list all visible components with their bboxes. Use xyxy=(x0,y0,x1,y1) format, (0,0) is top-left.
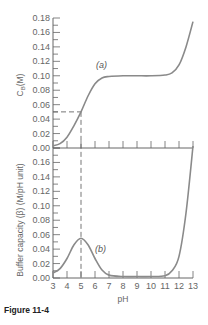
y-tick-label: 0.14 xyxy=(32,172,50,182)
x-tick-label: 8 xyxy=(120,281,125,291)
buffer-chart: 0.000.020.040.060.080.100.120.140.160.18… xyxy=(0,0,208,325)
y-tick-label: 0.16 xyxy=(32,157,50,167)
curve-a xyxy=(53,22,193,146)
figure-caption: Figure 11-4 xyxy=(4,305,49,315)
x-tick-label: 13 xyxy=(188,281,198,291)
x-tick-label: 10 xyxy=(146,281,156,291)
x-tick-label: 3 xyxy=(50,281,55,291)
y-tick-label: 0.10 xyxy=(32,201,50,211)
x-tick-label: 4 xyxy=(64,281,69,291)
y-tick-label: 0.02 xyxy=(32,259,50,269)
upper-y-axis-title: CB(M) xyxy=(15,73,26,96)
y-tick-label: 0.10 xyxy=(32,71,50,81)
y-tick-label: 0.12 xyxy=(32,56,50,66)
curve-label-a: (a) xyxy=(96,60,107,70)
x-axis-title: pH xyxy=(118,294,129,304)
y-tick-label: 0.08 xyxy=(32,85,50,95)
x-tick-label: 11 xyxy=(160,281,169,291)
curve-label-b: (b) xyxy=(95,244,106,254)
y-tick-label: 0.16 xyxy=(32,27,50,37)
y-tick-label: 0.00 xyxy=(32,143,50,153)
y-tick-label: 0.02 xyxy=(32,129,50,139)
y-tick-label: 0.04 xyxy=(32,114,50,124)
y-tick-label: 0.18 xyxy=(32,13,50,23)
y-tick-label: 0.08 xyxy=(32,215,50,225)
y-tick-label: 0.04 xyxy=(32,244,50,254)
x-tick-label: 12 xyxy=(174,281,184,291)
x-tick-label: 6 xyxy=(92,281,97,291)
curves xyxy=(53,22,193,277)
y-tick-label: 0.00 xyxy=(32,273,50,283)
y-tick-label: 0.12 xyxy=(32,186,50,196)
y-tick-label: 0.06 xyxy=(32,100,50,110)
x-tick-label: 5 xyxy=(78,281,83,291)
x-tick-label: 7 xyxy=(106,281,111,291)
curve-b xyxy=(53,146,193,277)
upper-axes: 0.000.020.040.060.080.100.120.140.160.18 xyxy=(32,13,193,153)
lower-y-axis-title: Buffer capacity (β) (M/pH unit) xyxy=(15,163,25,277)
x-tick-label: 9 xyxy=(134,281,139,291)
y-tick-label: 0.14 xyxy=(32,42,50,52)
y-tick-label: 0.06 xyxy=(32,230,50,240)
